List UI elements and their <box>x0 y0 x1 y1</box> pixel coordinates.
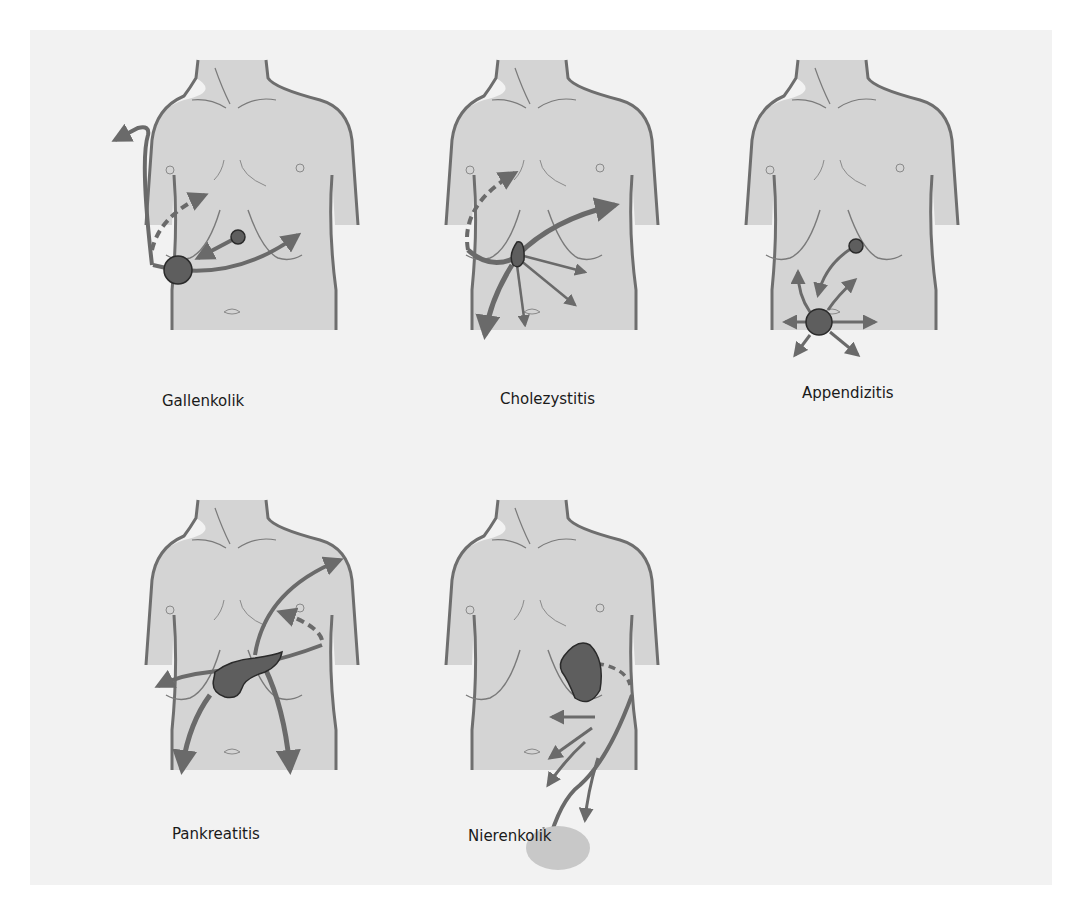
pain-origin-icon <box>849 239 863 253</box>
figure-label: Pankreatitis <box>172 825 260 843</box>
appendix-focus-icon <box>806 309 832 335</box>
torso-illustration <box>380 440 680 820</box>
figure-appendizitis: Appendizitis <box>680 0 980 380</box>
pain-origin-icon <box>231 230 245 244</box>
figure-label: Gallenkolik <box>162 392 244 410</box>
torso-illustration <box>80 0 380 380</box>
figure-cholezystitis: Cholezystitis <box>380 0 680 380</box>
figure-gallenkolik: Gallenkolik <box>80 0 380 380</box>
figure-label: Appendizitis <box>802 384 894 402</box>
torso-illustration <box>380 0 680 380</box>
pain-focus-icon <box>164 256 192 284</box>
torso-illustration <box>680 0 980 380</box>
torso-illustration <box>80 440 380 820</box>
figure-label: Nierenkolik <box>468 827 552 845</box>
figure-pankreatitis: Pankreatitis <box>80 440 380 820</box>
figure-nierenkolik: Nierenkolik <box>380 440 680 820</box>
figure-label: Cholezystitis <box>500 390 595 408</box>
